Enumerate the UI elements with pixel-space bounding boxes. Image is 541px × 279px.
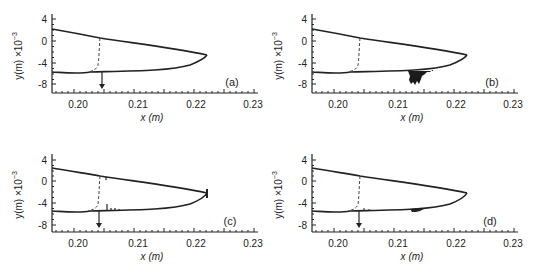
x-tick-label: 0.23 [503, 238, 523, 249]
x-tick-label: 0.20 [68, 238, 88, 249]
y-axis-title: y(m) ×10−3 [271, 32, 284, 80]
x-axis-title: x (m) [400, 251, 424, 262]
plot-a: y(m) ×10−3 4 0 -4 -8 0.20 0.21 0.22 0.23… [0, 0, 270, 139]
interface-dashed-curve [88, 176, 100, 211]
x-tick-label: 0.22 [446, 238, 466, 249]
plot-b: y(m) ×10−3 4 0 -4 -8 0.20 0.21 0.22 0.23… [260, 0, 541, 139]
y-tick-label: -8 [298, 79, 307, 90]
y-tick-label: -8 [38, 79, 47, 90]
arrow-down-icon [96, 223, 102, 228]
y-axis-title: y(m) ×10−3 [11, 32, 24, 80]
upper-boundary-curve [312, 168, 467, 193]
panel-c: y(m) ×10−3 4 0 -4 -8 0.20 0.21 0.22 0.23… [0, 140, 270, 279]
upper-boundary-curve [52, 168, 207, 193]
arrow-down-icon [356, 223, 362, 228]
plot-d: y(m) ×10−3 4 0 -4 -8 0.20 0.21 0.22 0.23… [260, 140, 541, 279]
y-axis-title: y(m) ×10−3 [11, 171, 24, 219]
panel-label: (b) [485, 76, 498, 88]
x-axis-title: x (m) [400, 112, 424, 123]
y-tick-label: -8 [298, 220, 307, 231]
lower-boundary-curve [52, 193, 207, 212]
panel-a: y(m) ×10−3 4 0 -4 -8 0.20 0.21 0.22 0.23… [0, 0, 270, 139]
tip-mark [206, 189, 208, 198]
x-tick-label: 0.22 [446, 99, 466, 110]
y-tick-label: -8 [38, 220, 47, 231]
x-tick-label: 0.20 [328, 238, 348, 249]
lower-boundary-curve [312, 193, 467, 212]
plot-c: y(m) ×10−3 4 0 -4 -8 0.20 0.21 0.22 0.23… [0, 140, 270, 279]
y-tick-label: 4 [301, 155, 307, 166]
y-tick-label: 0 [301, 176, 307, 187]
x-tick-label: 0.21 [388, 238, 408, 249]
y-tick-label: 4 [41, 14, 47, 25]
interface-dashed-curve [348, 176, 360, 211]
y-tick-label: 0 [41, 36, 47, 47]
x-tick-label: 0.21 [128, 238, 148, 249]
x-tick-label: 0.20 [68, 99, 88, 110]
y-tick-label: -4 [38, 58, 47, 69]
arrow-down-icon [99, 84, 105, 89]
x-tick-label: 0.20 [328, 99, 348, 110]
panel-label: (c) [224, 215, 237, 227]
x-tick-label: 0.23 [503, 99, 523, 110]
y-axis-title: y(m) ×10−3 [271, 171, 284, 219]
x-tick-label: 0.22 [186, 238, 206, 249]
x-tick-label: 0.21 [128, 99, 148, 110]
lower-boundary-curve [312, 55, 467, 73]
y-tick-label: 4 [41, 155, 47, 166]
filled-region [408, 70, 434, 85]
y-tick-label: 0 [301, 36, 307, 47]
x-axis-title: x (m) [140, 251, 164, 262]
y-tick-label: -4 [38, 198, 47, 209]
y-tick-label: -4 [298, 58, 307, 69]
panel-label: (a) [225, 76, 238, 88]
interface-dashed-curve [348, 38, 360, 72]
x-tick-label: 0.21 [388, 99, 408, 110]
x-tick-label: 0.22 [186, 99, 206, 110]
panel-b: y(m) ×10−3 4 0 -4 -8 0.20 0.21 0.22 0.23… [260, 0, 530, 139]
panel-label: (d) [483, 215, 496, 227]
x-axis-title: x (m) [140, 112, 164, 123]
lower-boundary-curve [52, 55, 207, 73]
y-tick-label: 4 [301, 14, 307, 25]
upper-boundary-curve [312, 29, 467, 55]
y-tick-label: 0 [41, 176, 47, 187]
interface-dashed-curve [88, 38, 100, 72]
spikes [106, 177, 119, 211]
panel-d: y(m) ×10−3 4 0 -4 -8 0.20 0.21 0.22 0.23… [260, 140, 530, 279]
upper-boundary-curve [52, 29, 207, 55]
y-tick-label: -4 [298, 198, 307, 209]
